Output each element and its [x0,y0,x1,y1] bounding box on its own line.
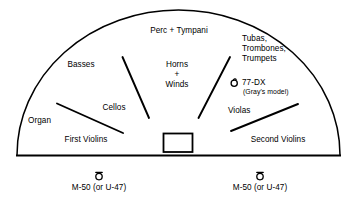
section-label-perc-tympani: Perc + Tympani [150,26,208,36]
section-label-horns-winds: Horns + Winds [147,60,207,91]
mic-label-left-m50: M-50 (or U-47) [72,183,126,193]
mic-label-right-m50: M-50 (or U-47) [233,183,287,193]
trumpets-line: Trumpets [242,54,312,64]
section-label-cellos: Cellos [102,103,125,113]
section-label-basses: Basses [67,60,94,70]
conductor-podium [164,134,193,153]
orchestra-stage-diagram: Perc + Tympani Basses Horns + Winds Tuba… [0,0,358,209]
omni-microphone-icon-left [96,172,102,179]
plus-line: + [147,70,207,80]
tubas-line: Tubas, [242,34,312,44]
section-label-organ: Organ [28,116,51,126]
section-label-second-violins: Second Violins [251,135,306,145]
section-label-brass: Tubas, Trombones, Trumpets [242,34,312,65]
omni-microphone-icon-right [257,172,263,179]
section-label-violas: Violas [228,106,250,116]
winds-line: Winds [147,80,207,90]
horns-line: Horns [147,60,207,70]
trombones-line: Trombones, [242,44,312,54]
mic-label-77dx: 77-DX [242,78,265,88]
section-label-first-violins: First Violins [65,135,108,145]
mic-sublabel-77dx: (Gray's model) [243,88,289,96]
